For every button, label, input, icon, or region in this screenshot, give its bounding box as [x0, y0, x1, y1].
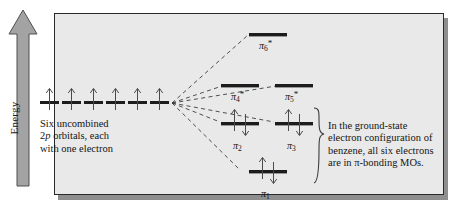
right-caption-line-4: are in π-bonding MOs.: [328, 157, 434, 169]
left-caption-line-1: Six uncombined: [40, 118, 113, 130]
level-label-pi2: π2: [233, 140, 242, 153]
energy-axis-label: Energy: [8, 90, 20, 146]
level-label-pi6: π6*: [259, 38, 272, 53]
right-caption: In the ground-state electron configurati…: [328, 120, 434, 170]
right-caption-line-2: electron configuration of: [328, 132, 434, 144]
left-caption-line-2: 2p orbitals, each: [40, 130, 113, 142]
left-caption: Six uncombined 2p orbitals, each with on…: [40, 118, 113, 155]
level-label-pi4: π4*: [231, 89, 244, 104]
right-caption-line-1: In the ground-state: [328, 120, 434, 132]
level-label-pi3: π3: [287, 140, 296, 153]
right-caption-line-3: benzene, all six electrons: [328, 145, 434, 157]
benzene-mo-energy-diagram: Energy: [0, 0, 452, 214]
left-caption-line-3: with one electron: [40, 143, 113, 155]
level-label-pi1: π1: [261, 188, 270, 201]
level-label-pi5: π5*: [285, 89, 298, 104]
